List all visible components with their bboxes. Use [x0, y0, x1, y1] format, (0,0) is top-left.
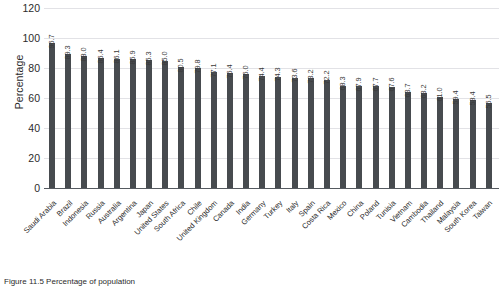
bar[interactable] — [324, 80, 330, 188]
bar-value-label: 74.3 — [274, 68, 281, 82]
bar[interactable] — [211, 72, 217, 188]
bar[interactable] — [162, 61, 168, 189]
bar-value-label: 61.0 — [436, 88, 443, 102]
bar-slot[interactable]: 76.0 — [238, 0, 254, 196]
bar[interactable] — [437, 97, 443, 189]
bar[interactable] — [243, 74, 249, 188]
y-axis-tick-label: 20 — [0, 152, 40, 164]
bar[interactable] — [292, 78, 298, 188]
bar[interactable] — [405, 92, 411, 188]
bar-value-label: 74.4 — [258, 67, 265, 81]
bar-value-label: 73.2 — [307, 69, 314, 83]
bar-slot[interactable]: 86.1 — [109, 0, 125, 196]
bar[interactable] — [421, 93, 427, 188]
bar-slot[interactable]: 88.0 — [76, 0, 92, 196]
bar[interactable] — [453, 99, 459, 188]
bar[interactable] — [340, 86, 346, 188]
bar-slot[interactable]: 74.3 — [270, 0, 286, 196]
y-axis-title: Percentage — [13, 32, 25, 132]
bar-value-label: 88.0 — [80, 47, 87, 61]
y-axis-tick-label: 100 — [0, 32, 40, 44]
y-axis-tick-label: 40 — [0, 122, 40, 134]
bar[interactable] — [259, 76, 265, 188]
bar-slot[interactable]: 77.1 — [206, 0, 222, 196]
bar-series: 96.789.388.086.486.185.985.385.080.579.8… — [44, 0, 497, 196]
bar-slot[interactable]: 86.4 — [93, 0, 109, 196]
bar[interactable] — [98, 58, 104, 188]
bar[interactable] — [308, 78, 314, 188]
bar[interactable] — [146, 60, 152, 188]
bar-value-label: 67.7 — [371, 77, 378, 91]
bar-slot[interactable]: 96.7 — [44, 0, 60, 196]
bar[interactable] — [356, 86, 362, 188]
bar-slot[interactable]: 63.2 — [416, 0, 432, 196]
bar-slot[interactable]: 67.6 — [384, 0, 400, 196]
bar-slot[interactable]: 85.0 — [157, 0, 173, 196]
bar-slot[interactable]: 85.9 — [125, 0, 141, 196]
bar[interactable] — [65, 54, 71, 188]
bar[interactable] — [275, 77, 281, 188]
y-axis-tick-label: 120 — [0, 2, 40, 14]
bar[interactable] — [49, 43, 55, 188]
bar-slot[interactable]: 79.8 — [190, 0, 206, 196]
bar-value-label: 77.1 — [210, 63, 217, 77]
category-slot: Taiwan — [481, 196, 497, 276]
bar-value-label: 72.2 — [323, 71, 330, 85]
bar-value-label: 73.6 — [290, 69, 297, 83]
bar-value-label: 63.2 — [420, 84, 427, 98]
bar-value-label: 86.1 — [113, 50, 120, 64]
bar-value-label: 80.5 — [177, 58, 184, 72]
bar-chart-figure: Percentage 120100806040200 96.789.388.08… — [0, 0, 499, 287]
category-label: Saudi Arabia — [22, 199, 57, 234]
bar-slot[interactable]: 56.5 — [481, 0, 497, 196]
bar-slot[interactable]: 68.3 — [335, 0, 351, 196]
bar-value-label: 85.3 — [145, 51, 152, 65]
bar[interactable] — [178, 67, 184, 188]
bar[interactable] — [486, 103, 492, 188]
bar[interactable] — [130, 59, 136, 188]
y-axis-tick-label: 80 — [0, 62, 40, 74]
bar-value-label: 96.7 — [48, 34, 55, 48]
bar-value-label: 67.6 — [387, 78, 394, 92]
bar-slot[interactable]: 73.2 — [303, 0, 319, 196]
bar[interactable] — [227, 73, 233, 188]
plot-area: Percentage 120100806040200 96.789.388.08… — [0, 0, 499, 196]
bar-slot[interactable]: 67.7 — [367, 0, 383, 196]
y-axis-tick-label: 60 — [0, 92, 40, 104]
bar-slot[interactable]: 61.0 — [432, 0, 448, 196]
bar-slot[interactable]: 76.4 — [222, 0, 238, 196]
bar-value-label: 59.4 — [452, 90, 459, 104]
bar-slot[interactable]: 59.4 — [448, 0, 464, 196]
bar-slot[interactable]: 80.5 — [173, 0, 189, 196]
bar-slot[interactable]: 89.3 — [60, 0, 76, 196]
bar-value-label: 76.0 — [242, 65, 249, 79]
bar[interactable] — [195, 68, 201, 188]
bar-value-label: 76.4 — [226, 64, 233, 78]
bar-value-label: 67.9 — [355, 77, 362, 91]
bar-value-label: 85.0 — [161, 52, 168, 66]
bar[interactable] — [470, 100, 476, 188]
x-axis-category-labels: Saudi ArabiaBrazilIndonesiaRussiaAustral… — [44, 196, 497, 276]
bar-slot[interactable]: 63.7 — [400, 0, 416, 196]
bar-slot[interactable]: 67.9 — [351, 0, 367, 196]
bar[interactable] — [114, 59, 120, 188]
bar-value-label: 89.3 — [64, 45, 71, 59]
bar-slot[interactable]: 58.4 — [464, 0, 480, 196]
bar[interactable] — [373, 86, 379, 188]
bar[interactable] — [389, 87, 395, 188]
bar-slot[interactable]: 85.3 — [141, 0, 157, 196]
bar-value-label: 79.8 — [193, 59, 200, 73]
bar-value-label: 86.4 — [96, 49, 103, 63]
bar-slot[interactable]: 73.6 — [287, 0, 303, 196]
bar-value-label: 68.3 — [339, 77, 346, 91]
bar-slot[interactable]: 72.2 — [319, 0, 335, 196]
bar[interactable] — [81, 56, 87, 188]
figure-caption: Figure 11.5 Percentage of population — [4, 277, 474, 287]
y-axis-tick-label: 0 — [0, 182, 40, 194]
bar-value-label: 58.4 — [468, 91, 475, 105]
bar-value-label: 56.5 — [485, 94, 492, 108]
bar-slot[interactable]: 74.4 — [254, 0, 270, 196]
bar-value-label: 63.7 — [404, 83, 411, 97]
bar-value-label: 85.9 — [129, 50, 136, 64]
